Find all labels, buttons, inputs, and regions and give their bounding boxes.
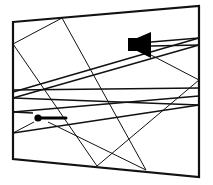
microphone-icon [34,114,66,121]
room-outline [13,6,199,177]
sound-rays [13,18,199,170]
sound-ray [13,88,199,90]
sound-ray [13,44,97,166]
speaker-icon [128,32,151,58]
ray-tracing-diagram: speaker microphone [0,0,213,185]
sound-ray [13,112,33,113]
diagram-canvas [0,0,213,185]
sound-ray [151,55,199,80]
